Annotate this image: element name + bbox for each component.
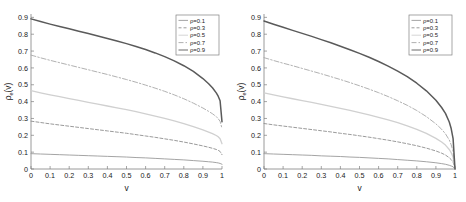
x-axis-label: v (124, 183, 129, 193)
x-tick-label: 0.5 (355, 171, 365, 180)
y-tick-label: 0.6 (251, 64, 261, 73)
y-tick-label: 0.7 (18, 47, 28, 56)
x-tick-label: 0.4 (102, 171, 112, 180)
chart-panel-left: 00.10.20.30.40.50.60.70.80.9100.10.20.30… (0, 0, 233, 202)
y-tick-label: 0.7 (251, 47, 261, 56)
legend-label: ρ=0.3 (190, 25, 206, 31)
y-tick-label: 0.8 (18, 30, 28, 39)
curve-0-1 (31, 154, 222, 165)
figure-container: 00.10.20.30.40.50.60.70.80.9100.10.20.30… (0, 0, 466, 202)
svg-text:ρe(v): ρe(v) (236, 82, 247, 100)
y-tick-label: 0 (257, 165, 261, 174)
legend-label: ρ=0.5 (423, 32, 439, 38)
y-tick-label: 0.3 (251, 114, 261, 123)
y-tick-label: 0.4 (251, 97, 261, 106)
y-axis-label: ρe(v) (3, 82, 14, 100)
y-tick-label: 0.4 (18, 97, 28, 106)
curve-0-7 (264, 58, 455, 169)
x-tick-label: 1 (220, 171, 224, 180)
y-tick-label: 0.2 (18, 131, 28, 140)
x-tick-label: 0.7 (160, 171, 170, 180)
x-tick-label: 0.9 (198, 171, 208, 180)
plot-area-right: 00.10.20.30.40.50.60.70.80.9100.10.20.30… (233, 0, 466, 202)
x-tick-label: 0.1 (278, 171, 288, 180)
x-tick-label: 0.2 (297, 171, 307, 180)
x-tick-label: 0.2 (64, 171, 74, 180)
x-axis-label: v (357, 183, 362, 193)
y-tick-label: 0.5 (251, 80, 261, 89)
y-axis-label: ρe(v) (236, 82, 247, 100)
x-tick-label: 0.7 (393, 171, 403, 180)
x-tick-label: 1 (453, 171, 457, 180)
legend-label: ρ=0.5 (190, 32, 206, 38)
curve-0-7 (31, 55, 222, 128)
x-tick-label: 0.8 (179, 171, 189, 180)
legend-label: ρ=0.9 (190, 47, 205, 53)
x-tick-label: 0.4 (335, 171, 345, 180)
y-tick-label: 0.1 (251, 148, 261, 157)
legend-label: ρ=0.3 (423, 25, 439, 31)
x-tick-label: 0.1 (45, 171, 55, 180)
plot-area-left: 00.10.20.30.40.50.60.70.80.9100.10.20.30… (0, 0, 233, 202)
y-tick-label: 0 (24, 165, 28, 174)
chart-panel-right: 00.10.20.30.40.50.60.70.80.9100.10.20.30… (233, 0, 466, 202)
y-tick-label: 0.6 (18, 64, 28, 73)
legend-label: ρ=0.1 (423, 18, 438, 24)
x-tick-label: 0 (262, 171, 266, 180)
curve-0-5 (31, 91, 222, 144)
y-tick-label: 0.8 (251, 30, 261, 39)
y-tick-label: 0.9 (18, 13, 28, 22)
y-tick-label: 0.2 (251, 131, 261, 140)
legend-label: ρ=0.9 (423, 47, 438, 53)
legend-label: ρ=0.1 (190, 18, 205, 24)
y-tick-label: 0.1 (18, 148, 28, 157)
y-tick-label: 0.5 (18, 80, 28, 89)
x-tick-label: 0.6 (374, 171, 384, 180)
x-tick-label: 0.5 (122, 171, 132, 180)
x-tick-label: 0.3 (316, 171, 326, 180)
legend-label: ρ=0.7 (190, 40, 205, 46)
x-tick-label: 0.9 (431, 171, 441, 180)
legend-label: ρ=0.7 (423, 40, 438, 46)
x-tick-label: 0.8 (412, 171, 422, 180)
x-tick-label: 0.6 (141, 171, 151, 180)
x-tick-label: 0.3 (83, 171, 93, 180)
x-tick-label: 0 (29, 171, 33, 180)
svg-text:ρe(v): ρe(v) (3, 82, 14, 100)
y-tick-label: 0.3 (18, 114, 28, 123)
y-tick-label: 0.9 (251, 13, 261, 22)
